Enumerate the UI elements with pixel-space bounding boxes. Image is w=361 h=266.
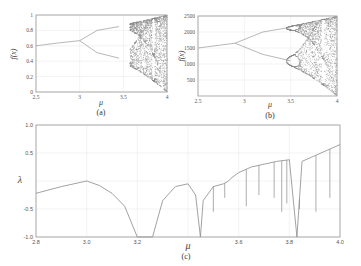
panel-b-grid — [198, 16, 337, 96]
panel-b-ylabel: f(x) — [177, 50, 186, 61]
x-tick-label: 3.5 — [287, 98, 294, 104]
panel-c-xlabel: μ — [184, 240, 190, 251]
panel-b-xlabel: μ — [267, 100, 272, 109]
y-tick-label: 1500 — [184, 45, 195, 51]
panel-b-ticks: 2.533.545001000150020002500 — [184, 13, 339, 104]
x-tick-label: 3.8 — [286, 239, 294, 245]
y-tick-label: 1.0 — [25, 122, 33, 128]
y-tick-label: -0.5 — [24, 206, 33, 212]
y-tick-label: 0.4 — [26, 58, 33, 64]
y-tick-label: 500 — [187, 77, 196, 83]
x-tick-label: 3.5 — [120, 94, 127, 100]
y-tick-label: 2000 — [184, 29, 195, 35]
y-tick-label: 0.8 — [26, 27, 33, 33]
figure: 2.533.5400.20.40.60.81 μ f(x) (a) 2.533.… — [0, 0, 361, 266]
y-tick-label: 1 — [30, 12, 33, 18]
x-tick-label: 3.0 — [83, 239, 91, 245]
x-tick-label: 3 — [78, 94, 81, 100]
x-tick-label: 4 — [166, 94, 169, 100]
x-tick-label: 2.5 — [195, 98, 202, 104]
panel-a-xlabel: μ — [98, 98, 103, 107]
y-tick-label: 0.2 — [26, 74, 33, 80]
x-tick-label: 4 — [336, 98, 339, 104]
panel-a-bifurcation: 2.533.5400.20.40.60.81 μ f(x) (a) — [9, 12, 169, 117]
y-tick-label: 0 — [30, 89, 33, 95]
y-tick-label: -1.0 — [24, 234, 33, 240]
x-tick-label: 3.6 — [235, 239, 243, 245]
panel-b-frame — [198, 16, 337, 96]
y-tick-label: 0.6 — [26, 43, 33, 49]
panel-a-data — [36, 15, 168, 92]
x-tick-label: 3.2 — [134, 239, 142, 245]
x-tick-label: 2.8 — [32, 239, 40, 245]
panel-c-caption: (c) — [182, 252, 191, 261]
panel-a-ylabel: f(x) — [9, 48, 18, 59]
panel-a-caption: (a) — [97, 108, 106, 117]
y-tick-label: 2500 — [184, 13, 195, 19]
x-tick-label: 4.0 — [336, 239, 344, 245]
panel-b-bifurcation: 2.533.545001000150020002500 μ f(x) (b) — [177, 13, 339, 120]
y-tick-label: 0.5 — [25, 150, 33, 156]
panel-c-grid — [36, 125, 340, 237]
panel-b-data — [198, 16, 338, 96]
x-tick-label: 3 — [243, 98, 246, 104]
panel-c-lyapunov: 2.83.03.23.63.84.01.00.5-0.5-1.0 μ λ (c) — [17, 122, 344, 261]
x-tick-label: 2.5 — [33, 94, 40, 100]
panel-b-caption: (b) — [265, 111, 275, 120]
panel-c-ylabel: λ — [17, 174, 23, 185]
